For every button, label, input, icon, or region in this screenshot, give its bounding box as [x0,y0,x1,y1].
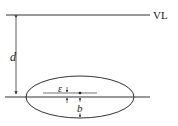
epsilon-label: ε [58,83,62,94]
b-label: b [77,102,83,114]
diagram-canvas: VL d ε b [0,0,178,126]
vl-label: VL [153,9,168,21]
depth-label: d [10,50,17,64]
center-dot [79,92,82,95]
